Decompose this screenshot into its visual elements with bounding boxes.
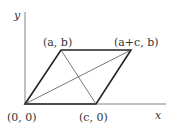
diagram-canvas: y x (0, 0) (a, b) (a+c, b) (c, 0): [0, 0, 175, 131]
diagonal-a-to-c: [61, 50, 96, 104]
vertex-label-c: (c, 0): [79, 111, 108, 124]
vertex-label-a: (a, b): [43, 36, 72, 49]
vertex-label-b: (a+c, b): [114, 36, 159, 49]
y-axis-label: y: [13, 9, 21, 22]
vertex-label-o: (0, 0): [7, 111, 37, 124]
x-axis-label: x: [155, 109, 162, 122]
diagonal-o-to-b: [25, 50, 131, 104]
